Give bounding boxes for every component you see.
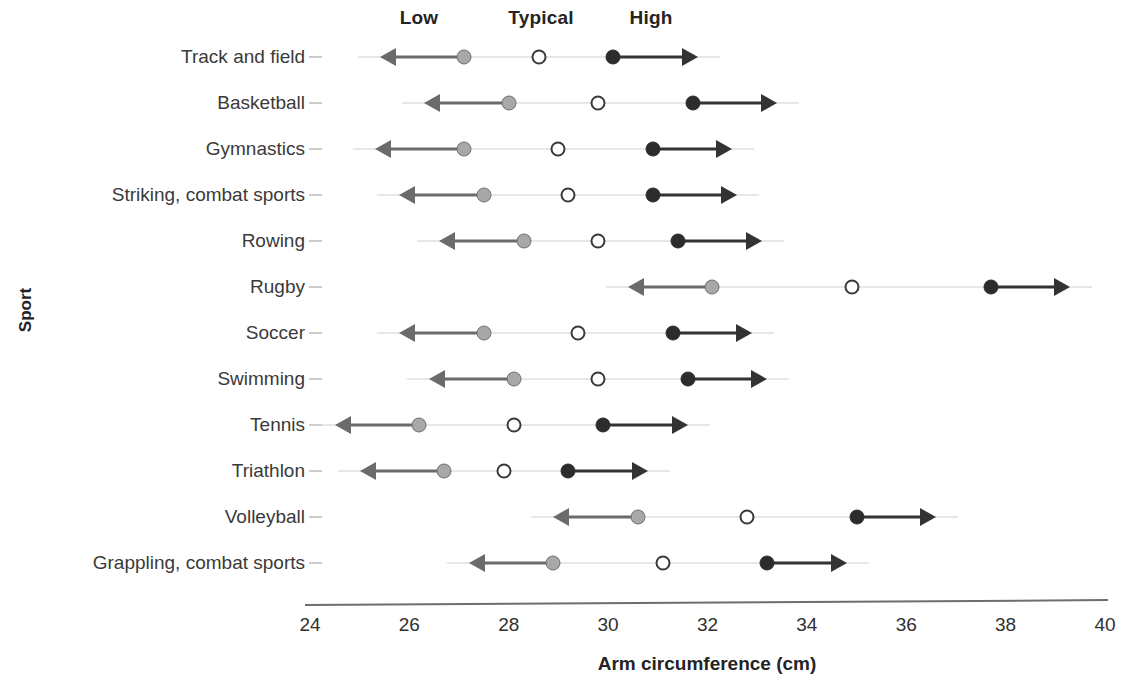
x-tick-label: 26 [399,614,420,636]
high-marker[interactable] [561,464,576,479]
arm-circumference-chart: LowTypicalHigh Sport Track and fieldBask… [0,0,1140,697]
low-arrow-line [388,148,464,151]
y-axis-tick [309,287,322,288]
high-marker[interactable] [983,280,998,295]
low-marker[interactable] [437,464,452,479]
low-marker[interactable] [476,326,491,341]
high-arrow-line [693,102,764,105]
high-marker[interactable] [670,234,685,249]
low-arrow-line [412,194,483,197]
high-marker[interactable] [645,188,660,203]
typical-marker[interactable] [591,96,606,111]
x-axis-line [305,599,1108,606]
row-label-tennis: Tennis [250,414,305,436]
low-arrow-head [335,416,351,434]
low-arrow-line [393,56,464,59]
column-header-high: High [629,7,672,29]
high-marker[interactable] [606,50,621,65]
chart-row: Swimming [0,356,1140,402]
high-marker[interactable] [680,372,695,387]
row-label-track-and-field: Track and field [181,46,305,68]
typical-marker[interactable] [591,234,606,249]
low-arrow-line [641,286,712,289]
chart-row: Rowing [0,218,1140,264]
x-tick-label: 40 [1094,614,1115,636]
chart-row: Track and field [0,34,1140,80]
chart-row: Rugby [0,264,1140,310]
high-arrow-line [678,240,749,243]
low-marker[interactable] [457,142,472,157]
typical-marker[interactable] [506,418,521,433]
chart-row: Triathlon [0,448,1140,494]
y-axis-tick [309,57,322,58]
high-marker[interactable] [849,510,864,525]
chart-row: Volleyball [0,494,1140,540]
row-label-gymnastics: Gymnastics [206,138,305,160]
low-marker[interactable] [501,96,516,111]
high-arrow-line [603,424,674,427]
low-arrow-line [452,240,523,243]
high-arrow-head [682,48,698,66]
x-tick-label: 34 [796,614,817,636]
x-tick-label: 28 [498,614,519,636]
typical-marker[interactable] [740,510,755,525]
x-tick-label: 30 [598,614,619,636]
low-arrow-head [399,186,415,204]
low-marker[interactable] [546,556,561,571]
high-marker[interactable] [665,326,680,341]
low-arrow-line [373,470,444,473]
high-arrow-line [673,332,740,335]
row-label-basketball: Basketball [217,92,305,114]
row-label-triathlon: Triathlon [232,460,305,482]
high-arrow-line [857,516,924,519]
low-arrow-line [482,562,553,565]
low-arrow-head [439,232,455,250]
low-marker[interactable] [630,510,645,525]
high-marker[interactable] [760,556,775,571]
typical-marker[interactable] [571,326,586,341]
chart-row: Tennis [0,402,1140,448]
chart-row: Grappling, combat sports [0,540,1140,586]
chart-row: Striking, combat sports [0,172,1140,218]
x-tick-label: 38 [995,614,1016,636]
typical-marker[interactable] [496,464,511,479]
y-axis-tick [309,195,322,196]
high-marker[interactable] [685,96,700,111]
high-arrow-head [736,324,752,342]
typical-marker[interactable] [561,188,576,203]
x-axis-title: Arm circumference (cm) [598,653,817,675]
y-axis-tick [309,563,322,564]
low-arrow-head [429,370,445,388]
row-label-striking-combat-sports: Striking, combat sports [112,184,305,206]
low-arrow-head [375,140,391,158]
high-arrow-line [568,470,635,473]
low-arrow-head [628,278,644,296]
typical-marker[interactable] [531,50,546,65]
typical-marker[interactable] [655,556,670,571]
low-marker[interactable] [705,280,720,295]
y-axis-tick [309,517,322,518]
chart-row: Soccer [0,310,1140,356]
typical-marker[interactable] [844,280,859,295]
x-tick-label: 36 [896,614,917,636]
low-marker[interactable] [457,50,472,65]
high-arrow-head [716,140,732,158]
low-arrow-head [553,508,569,526]
low-marker[interactable] [516,234,531,249]
low-marker[interactable] [506,372,521,387]
typical-marker[interactable] [591,372,606,387]
y-axis-tick [309,379,322,380]
high-arrow-line [613,56,684,59]
row-label-soccer: Soccer [246,322,305,344]
low-arrow-line [348,424,419,427]
low-marker[interactable] [412,418,427,433]
typical-marker[interactable] [551,142,566,157]
low-marker[interactable] [476,188,491,203]
row-label-rowing: Rowing [242,230,305,252]
high-arrow-head [920,508,936,526]
high-marker[interactable] [645,142,660,157]
high-marker[interactable] [596,418,611,433]
column-header-typical: Typical [508,7,573,29]
chart-row: Gymnastics [0,126,1140,172]
y-axis-tick [309,241,322,242]
